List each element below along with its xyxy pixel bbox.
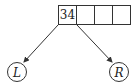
node-box: 34 xyxy=(59,6,131,25)
left-pointer-arrow xyxy=(24,25,58,62)
left-child-label: L xyxy=(12,66,21,80)
left-child: L xyxy=(8,63,27,82)
right-child-label: R xyxy=(113,66,123,80)
node-key-1: 34 xyxy=(60,8,76,22)
right-pointer-arrow xyxy=(77,25,112,62)
right-child: R xyxy=(110,63,129,82)
tree-diagram: 34 L R xyxy=(0,0,139,82)
